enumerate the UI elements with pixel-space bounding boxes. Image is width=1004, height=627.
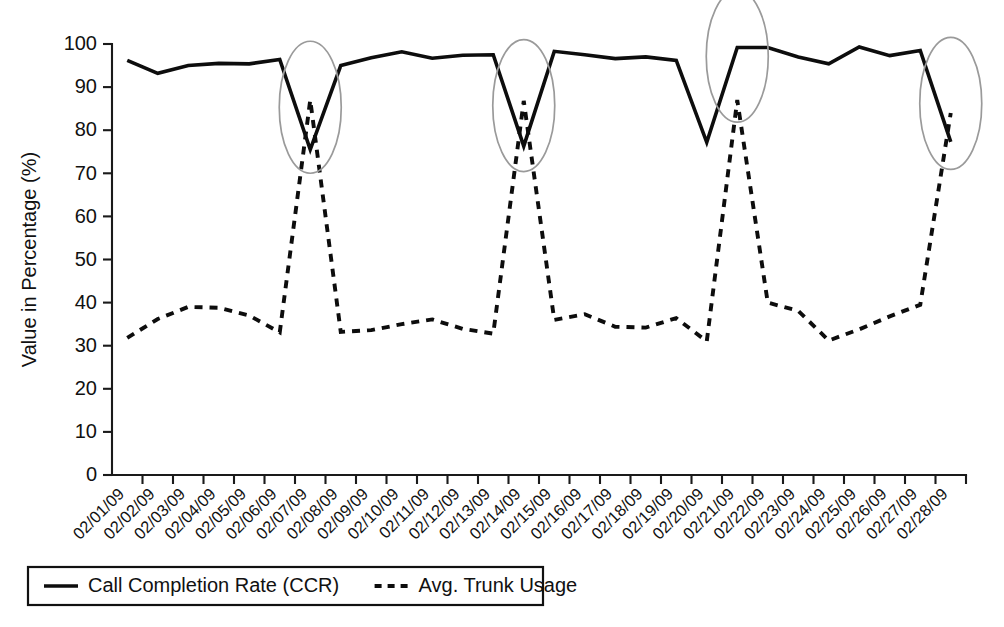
y-tick-label: 60 bbox=[75, 205, 97, 227]
y-axis: 0102030405060708090100 bbox=[64, 32, 112, 485]
legend-label-0: Call Completion Rate (CCR) bbox=[88, 574, 339, 596]
y-tick-label: 50 bbox=[75, 248, 97, 270]
anomaly-ellipse bbox=[920, 37, 982, 169]
y-axis-title: Value in Percentage (%) bbox=[18, 152, 40, 367]
anomaly-highlights bbox=[279, 0, 982, 173]
legend-label-1: Avg. Trunk Usage bbox=[419, 574, 578, 596]
y-tick-label: 30 bbox=[75, 334, 97, 356]
y-tick-label: 0 bbox=[86, 463, 97, 485]
chart-legend: Call Completion Rate (CCR)Avg. Trunk Usa… bbox=[28, 567, 577, 605]
chart-container: 0102030405060708090100 02/01/0902/02/090… bbox=[0, 0, 1004, 627]
y-axis-title-label: Value in Percentage (%) bbox=[18, 152, 40, 367]
y-tick-label: 90 bbox=[75, 75, 97, 97]
plot-area bbox=[127, 47, 951, 341]
y-tick-label: 20 bbox=[75, 377, 97, 399]
y-tick-label: 10 bbox=[75, 420, 97, 442]
x-axis: 02/01/0902/02/0902/03/0902/04/0902/05/09… bbox=[69, 475, 966, 543]
y-tick-label: 80 bbox=[75, 118, 97, 140]
y-tick-label: 40 bbox=[75, 291, 97, 313]
y-tick-label: 70 bbox=[75, 162, 97, 184]
line-chart: 0102030405060708090100 02/01/0902/02/090… bbox=[0, 0, 1004, 627]
series-line-0 bbox=[127, 47, 951, 150]
y-tick-label: 100 bbox=[64, 32, 97, 54]
series-line-1 bbox=[127, 100, 951, 341]
